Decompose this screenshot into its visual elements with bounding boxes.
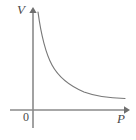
x-axis-label: P (117, 112, 125, 125)
y-axis-arrowhead (29, 7, 36, 13)
plot-svg (0, 0, 136, 140)
origin-label: 0 (23, 111, 29, 123)
y-axis-label: V (17, 3, 25, 16)
inverse-proportion-curve (38, 12, 125, 99)
figure-container: V P 0 (0, 0, 136, 140)
